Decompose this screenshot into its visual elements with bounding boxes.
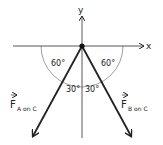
svg-text:A on C: A on C [17, 105, 37, 112]
angle-label-right-30: 30° [85, 85, 99, 94]
force-diagram: x y 60° 60° 30° 30° F A on C F B on C [0, 0, 163, 145]
angle-label-left-30: 30° [66, 85, 80, 94]
svg-text:F: F [121, 99, 127, 110]
y-axis-label: y [78, 5, 84, 15]
svg-text:B on C: B on C [128, 105, 148, 112]
angle-label-left-60: 60° [51, 59, 65, 68]
vector-label-a-on-c: F A on C [10, 95, 37, 112]
vector-label-b-on-c: F B on C [121, 95, 148, 112]
angle-label-right-60: 60° [101, 59, 115, 68]
origin-point [79, 43, 84, 48]
x-axis-label: x [146, 41, 152, 51]
svg-text:F: F [10, 99, 16, 110]
